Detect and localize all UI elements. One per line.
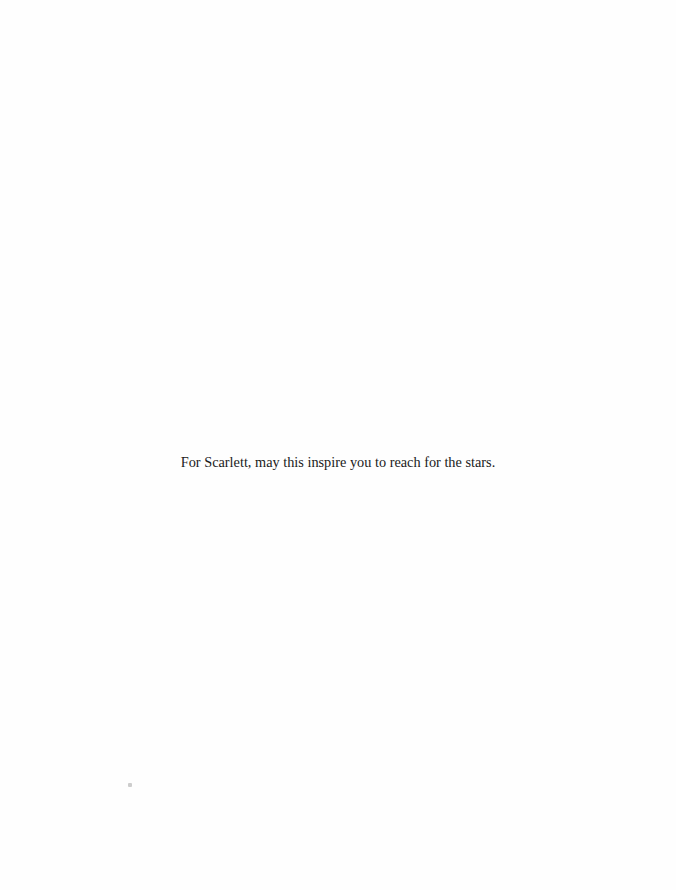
dedication-page: For Scarlett, may this inspire you to re… [0,0,676,890]
dedication-text: For Scarlett, may this inspire you to re… [0,453,676,471]
scan-artifact [128,783,132,787]
